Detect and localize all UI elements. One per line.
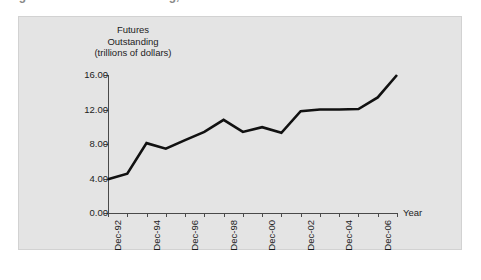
cropped-figure-title: Figure 1 Futures Outstanding, 1992-2007	[0, 0, 481, 10]
figure-title-text: Figure 1 Futures Outstanding, 1992-2007	[8, 0, 240, 3]
plot-area: Futures Outstanding (trillions of dollar…	[19, 17, 463, 251]
chart-panel: Futures Outstanding (trillions of dollar…	[18, 16, 462, 250]
futures-outstanding-line	[108, 75, 397, 179]
series-svg	[19, 17, 463, 251]
